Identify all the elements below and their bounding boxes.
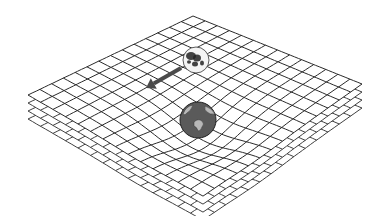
- earth-icon: [180, 102, 216, 138]
- diagram-canvas: [0, 0, 385, 216]
- moon-icon: [183, 47, 209, 73]
- spacetime-diagram: [0, 0, 385, 216]
